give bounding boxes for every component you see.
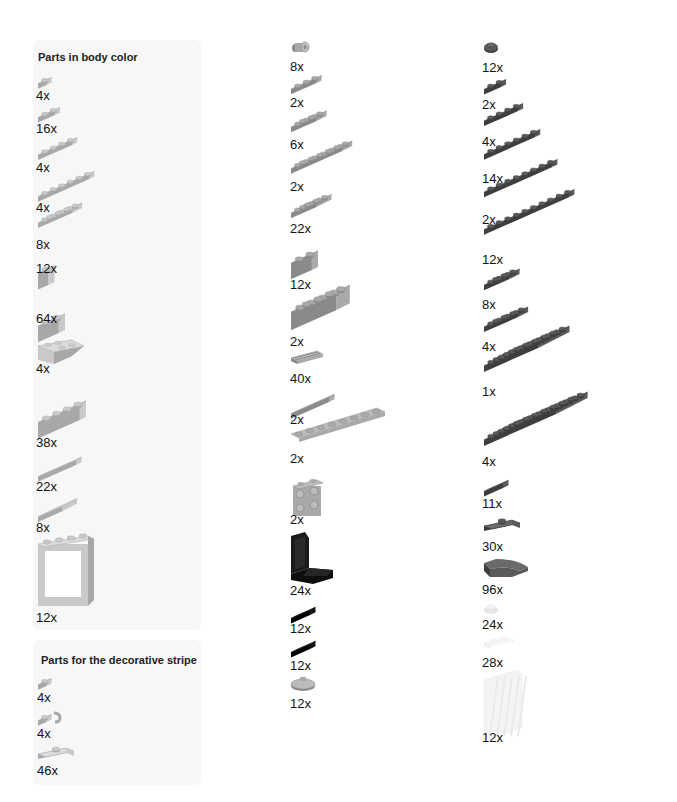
plate-1x2-jumper-icon [36, 740, 76, 762]
plate-1x1-round-icon [482, 40, 500, 54]
part-quantity: 22x [290, 222, 311, 235]
part-quantity: 12x [36, 262, 57, 275]
technic-pin-connector-icon [289, 38, 311, 54]
part-quantity: 8x [36, 238, 50, 251]
part-quantity: 96x [482, 583, 503, 596]
section-heading-decorative-stripe: Parts for the decorative stripe [41, 654, 197, 666]
plate-1x1-round-trans-icon [482, 601, 500, 615]
part-quantity: 4x [482, 455, 496, 468]
window-frame-1x4x3-icon [36, 530, 98, 608]
part-quantity: 12x [482, 731, 503, 744]
dish-2x2-round-icon [289, 673, 319, 693]
part-quantity: 46x [37, 764, 58, 777]
part-quantity: 2x [290, 513, 304, 526]
part-quantity: 4x [37, 691, 51, 704]
part-quantity: 11x [482, 497, 502, 510]
part-quantity: 4x [37, 727, 51, 740]
part-quantity: 2x [290, 452, 304, 465]
plate-1x4-icon [36, 128, 80, 163]
plate-1x2-jumper-icon [482, 512, 522, 534]
part-quantity: 12x [290, 697, 311, 710]
plate-1x10-icon [482, 180, 577, 238]
plate-6x8-icon [482, 396, 592, 475]
part-quantity: 24x [482, 618, 503, 631]
part-quantity: 12x [36, 611, 57, 624]
part-quantity: 40x [290, 372, 311, 385]
plate-1x3-icon [289, 66, 324, 97]
seat-2x2-icon [287, 530, 339, 586]
section-heading-body-color: Parts in body color [38, 51, 138, 63]
part-quantity: 12x [290, 659, 311, 672]
plate-2x3-icon [482, 262, 522, 298]
plate-2x6-icon [289, 134, 355, 182]
plate-2x4-icon [36, 196, 85, 236]
part-quantity: 64x [36, 312, 57, 325]
part-quantity: 22x [36, 480, 57, 493]
part-quantity: 30x [482, 540, 503, 553]
part-quantity: 4x [36, 362, 50, 375]
plate-1x2-trans-icon [482, 633, 516, 651]
brick-2x4-icon [289, 280, 353, 341]
slope-curved-2x1-icon [482, 555, 532, 579]
tile-1x2-grooved-grille-icon [289, 345, 327, 365]
technic-plate-1x8-holes-icon [289, 402, 389, 444]
part-quantity: 24x [290, 584, 311, 597]
tile-1x2-black-icon [289, 632, 318, 661]
glass-window-1x4x3-trans-icon [482, 666, 526, 738]
